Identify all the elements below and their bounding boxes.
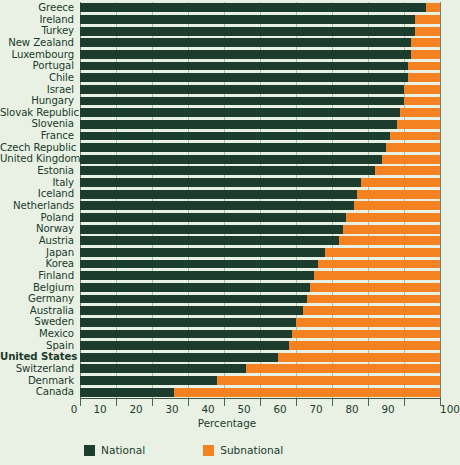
bar-segment-national	[80, 190, 357, 199]
legend-item-subnational[interactable]: Subnational	[203, 444, 283, 456]
bar-row[interactable]	[80, 50, 440, 59]
bar-row[interactable]	[80, 318, 440, 327]
category-label: Australia	[0, 305, 77, 317]
bar-row[interactable]	[80, 190, 440, 199]
category-axis-labels: GreeceIrelandTurkeyNew ZealandLuxembourg…	[0, 2, 77, 398]
bar-segment-subnational	[289, 341, 440, 350]
bar-segment-subnational	[314, 271, 440, 280]
bar-row[interactable]	[80, 201, 440, 210]
category-label: Norway	[0, 223, 77, 235]
bar-segment-subnational	[404, 85, 440, 94]
bar-segment-subnational	[390, 132, 440, 141]
bar-segment-subnational	[310, 283, 440, 292]
gridline-100	[440, 2, 441, 398]
bar-row[interactable]	[80, 213, 440, 222]
bar-row[interactable]	[80, 132, 440, 141]
bar-row[interactable]	[80, 283, 440, 292]
bar-segment-subnational	[307, 295, 440, 304]
legend-item-national[interactable]: National	[84, 444, 145, 456]
bar-segment-subnational	[246, 364, 440, 373]
bar-row[interactable]	[80, 3, 440, 12]
tick-label-70: 70	[309, 403, 322, 415]
bar-segment-national	[80, 271, 314, 280]
bar-segment-national	[80, 225, 343, 234]
bar-row[interactable]	[80, 73, 440, 82]
tick-mark-90	[404, 399, 405, 406]
bar-row[interactable]	[80, 248, 440, 257]
chart-plot-area	[80, 2, 440, 398]
bar-segment-national	[80, 62, 408, 71]
bar-row[interactable]	[80, 295, 440, 304]
bar-row[interactable]	[80, 306, 440, 315]
bar-row[interactable]	[80, 155, 440, 164]
category-label: Greece	[0, 2, 77, 14]
bar-row[interactable]	[80, 120, 440, 129]
tick-label-60: 60	[273, 403, 286, 415]
bar-segment-subnational	[397, 120, 440, 129]
bar-segment-national	[80, 236, 339, 245]
bar-row[interactable]	[80, 178, 440, 187]
bar-segment-subnational	[325, 248, 440, 257]
category-label: Switzerland	[0, 363, 77, 375]
bar-segment-subnational	[318, 260, 440, 269]
bar-row[interactable]	[80, 15, 440, 24]
bar-segment-national	[80, 306, 303, 315]
tick-label-90: 90	[381, 403, 394, 415]
x-axis-title: Percentage	[0, 417, 454, 429]
bar-row[interactable]	[80, 143, 440, 152]
bar-segment-subnational	[339, 236, 440, 245]
category-label: France	[0, 130, 77, 142]
bar-row[interactable]	[80, 38, 440, 47]
category-label: United States	[0, 351, 77, 363]
category-label: United Kingdom	[0, 153, 77, 165]
bar-segment-national	[80, 85, 404, 94]
bar-row[interactable]	[80, 108, 440, 117]
bar-segment-national	[80, 155, 382, 164]
bar-row[interactable]	[80, 388, 440, 397]
bar-row[interactable]	[80, 260, 440, 269]
bar-segment-subnational	[361, 178, 440, 187]
bar-row[interactable]	[80, 236, 440, 245]
chart-legend: National Subnational	[84, 444, 283, 456]
bar-row[interactable]	[80, 364, 440, 373]
bar-segment-subnational	[375, 166, 440, 175]
bar-segment-national	[80, 178, 361, 187]
bar-segment-subnational	[343, 225, 440, 234]
bar-segment-national	[80, 388, 174, 397]
bar-segment-subnational	[408, 73, 440, 82]
bar-segment-subnational	[278, 353, 440, 362]
category-label: Germany	[0, 293, 77, 305]
bar-segment-subnational	[357, 190, 440, 199]
bar-segment-subnational	[296, 318, 440, 327]
bar-segment-subnational	[354, 201, 440, 210]
bar-row[interactable]	[80, 353, 440, 362]
bar-row[interactable]	[80, 330, 440, 339]
bar-row[interactable]	[80, 225, 440, 234]
bar-row[interactable]	[80, 85, 440, 94]
bar-segment-subnational	[415, 27, 440, 36]
bar-segment-subnational	[411, 50, 440, 59]
category-label: New Zealand	[0, 37, 77, 49]
x-axis-ticks: 0102030405060708090100	[80, 399, 440, 413]
tick-label-20: 20	[129, 403, 142, 415]
bar-row[interactable]	[80, 62, 440, 71]
bar-row[interactable]	[80, 97, 440, 106]
legend-swatch-subnational-icon	[203, 445, 214, 456]
category-label: Austria	[0, 235, 77, 247]
bar-row[interactable]	[80, 166, 440, 175]
bar-segment-subnational	[303, 306, 440, 315]
bar-segment-subnational	[292, 330, 440, 339]
bar-segment-national	[80, 260, 318, 269]
bar-segment-national	[80, 166, 375, 175]
category-label: Iceland	[0, 188, 77, 200]
bar-row[interactable]	[80, 27, 440, 36]
category-label: Japan	[0, 247, 77, 259]
bar-row[interactable]	[80, 376, 440, 385]
bar-segment-national	[80, 318, 296, 327]
bar-row[interactable]	[80, 271, 440, 280]
bar-segment-national	[80, 27, 415, 36]
tick-label-100: 100	[440, 403, 460, 415]
bar-row[interactable]	[80, 341, 440, 350]
category-label: Sweden	[0, 316, 77, 328]
